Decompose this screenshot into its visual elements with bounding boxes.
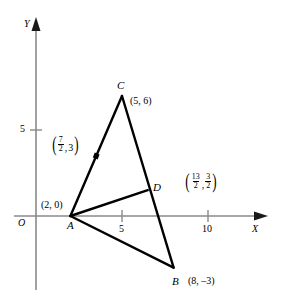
vertex-label-c: C bbox=[117, 80, 124, 91]
y-axis-label: Y bbox=[24, 19, 30, 29]
x-axis-label: X bbox=[252, 224, 258, 234]
coordinate-plane-figure: Y X O 5 5 10 C (5, 6) A (2, 0) B (8, –3)… bbox=[0, 0, 286, 304]
midpoint-tick-marker bbox=[93, 153, 100, 160]
left-paren-d: ( bbox=[185, 173, 189, 190]
numerator-3: 3 bbox=[205, 173, 211, 181]
vertex-coord-a: (2, 0) bbox=[41, 200, 63, 210]
x-tick-label-10: 10 bbox=[202, 224, 212, 234]
vertex-coord-b: (8, –3) bbox=[188, 276, 215, 286]
fraction-three-halves: 3 2 bbox=[205, 173, 211, 191]
y-tick-label-5: 5 bbox=[20, 124, 25, 134]
vertex-label-d: D bbox=[153, 182, 161, 193]
right-paren-d: ) bbox=[212, 173, 216, 190]
right-paren-midpoint: ) bbox=[74, 136, 78, 153]
left-paren-midpoint: ( bbox=[52, 136, 56, 153]
x-tick-label-5: 5 bbox=[119, 224, 124, 234]
median-segment-ad bbox=[70, 190, 147, 216]
denominator-2b: 2 bbox=[205, 181, 211, 190]
denominator-2: 2 bbox=[193, 181, 199, 190]
vertex-coord-d-fraction: ( 13 2 , 3 2 ) bbox=[184, 173, 218, 191]
vertex-label-a: A bbox=[67, 220, 74, 231]
plot-svg bbox=[0, 0, 286, 304]
vertex-coord-c: (5, 6) bbox=[130, 96, 152, 106]
numerator-13: 13 bbox=[191, 173, 201, 181]
midpoint-ac-label: ( 7 2 , 3 ) bbox=[51, 136, 80, 154]
vertex-label-b: B bbox=[172, 276, 179, 287]
origin-label: O bbox=[18, 218, 25, 228]
y-axis bbox=[32, 17, 41, 290]
fraction-thirteen-halves: 13 2 bbox=[191, 173, 201, 191]
midpoint-y-value: 3 bbox=[68, 143, 73, 154]
x-axis bbox=[14, 212, 268, 221]
